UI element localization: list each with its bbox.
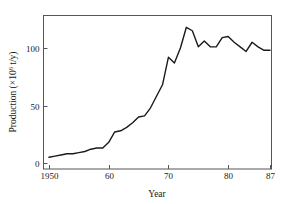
x-tick-label-87: 87 — [266, 171, 276, 181]
y-axis-title-unit-close: t/y) — [8, 52, 19, 68]
y-axis-title: Production (×106 t/y) — [7, 52, 19, 133]
x-axis-title: Year — [148, 189, 166, 199]
y-tick-label-0: 0 — [35, 159, 40, 169]
x-tick-label-60: 60 — [105, 171, 115, 181]
x-tick-label-80: 80 — [224, 171, 234, 181]
x-tick-label-1950: 1950 — [41, 171, 60, 181]
y-tick-label-100: 100 — [26, 44, 40, 54]
chart-figure: 195060708087 050100 Year Production (×10… — [0, 0, 293, 204]
y-tick-label-50: 50 — [31, 102, 41, 112]
x-tick-label-70: 70 — [164, 171, 174, 181]
svg-text:Production (×106 t/y): Production (×106 t/y) — [7, 52, 19, 133]
y-axis-title-name: Production — [8, 91, 18, 133]
y-axis-title-unit-open: (×10 — [8, 70, 19, 88]
production-line-chart: 195060708087 050100 Year Production (×10… — [0, 0, 293, 204]
